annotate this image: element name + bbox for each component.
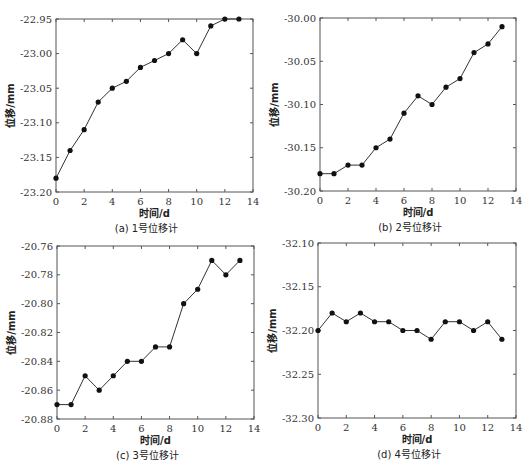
x-tick-label: 6 <box>137 196 143 207</box>
data-point-marker <box>153 344 158 349</box>
data-point-marker <box>97 388 102 393</box>
data-point-marker <box>499 24 504 29</box>
x-tick-label: 12 <box>218 196 231 207</box>
data-point-marker <box>124 79 129 84</box>
data-point-marker <box>429 102 434 107</box>
x-tick-label: 14 <box>510 195 523 206</box>
data-point-marker <box>401 111 406 116</box>
chart-caption: (c) 3号位移计 <box>116 449 179 461</box>
x-tick-label: 4 <box>373 195 379 206</box>
y-tick-label: -20.86 <box>21 385 53 396</box>
data-point-marker <box>222 16 227 21</box>
chart-caption: (d) 4号位移计 <box>377 448 441 460</box>
y-tick-label: -30.15 <box>284 142 316 153</box>
x-tick-label: 2 <box>81 196 87 207</box>
y-tick-label: -30.20 <box>284 186 316 197</box>
y-tick-label: -23.05 <box>20 83 52 94</box>
data-line <box>56 19 239 178</box>
data-point-marker <box>67 148 72 153</box>
data-line <box>318 313 502 339</box>
data-point-marker <box>83 373 88 378</box>
data-point-marker <box>485 41 490 46</box>
data-point-marker <box>429 337 434 342</box>
data-point-marker <box>344 319 349 324</box>
plot-frame <box>56 19 253 192</box>
data-point-marker <box>443 85 448 90</box>
x-tick-label: 0 <box>315 422 321 433</box>
data-point-marker <box>138 65 143 70</box>
chart-panel-d: 02468101214-32.30-32.25-32.20-32.15-32.1… <box>266 238 522 461</box>
data-point-marker <box>457 76 462 81</box>
data-point-marker <box>400 328 405 333</box>
x-tick-label: 14 <box>247 196 260 207</box>
figure-canvas: 02468101214-23.20-23.15-23.10-23.05-23.0… <box>0 0 530 474</box>
data-point-marker <box>208 23 213 28</box>
x-axis-title: 时间/d <box>403 206 434 218</box>
x-tick-label: 12 <box>482 195 495 206</box>
plot-frame <box>57 246 254 419</box>
y-axis-title: 位移/mm <box>4 83 16 128</box>
data-point-marker <box>209 258 214 263</box>
x-tick-label: 2 <box>345 195 351 206</box>
data-point-marker <box>443 319 448 324</box>
x-tick-label: 4 <box>109 196 115 207</box>
data-point-marker <box>181 301 186 306</box>
x-tick-label: 6 <box>401 195 407 206</box>
data-point-marker <box>485 319 490 324</box>
x-tick-label: 14 <box>248 423 261 434</box>
data-point-marker <box>372 319 377 324</box>
data-point-marker <box>223 272 228 277</box>
data-point-marker <box>110 86 115 91</box>
data-point-marker <box>139 359 144 364</box>
x-tick-label: 14 <box>510 422 523 433</box>
y-tick-label: -23.00 <box>20 48 52 59</box>
data-point-marker <box>96 99 101 104</box>
x-tick-label: 10 <box>454 195 467 206</box>
data-point-marker <box>345 162 350 167</box>
data-point-marker <box>237 258 242 263</box>
data-point-marker <box>386 319 391 324</box>
y-tick-label: -23.20 <box>20 187 52 198</box>
data-point-marker <box>195 287 200 292</box>
x-tick-label: 10 <box>191 423 204 434</box>
x-tick-label: 4 <box>110 423 116 434</box>
y-tick-label: -23.15 <box>20 152 52 163</box>
y-tick-label: -20.78 <box>21 269 53 280</box>
data-point-marker <box>317 171 322 176</box>
y-tick-label: -30.05 <box>284 56 316 67</box>
y-tick-label: -32.10 <box>282 238 314 249</box>
y-tick-label: -32.30 <box>282 413 314 424</box>
data-line <box>57 260 240 404</box>
y-tick-label: -20.80 <box>21 298 53 309</box>
y-tick-label: -20.82 <box>21 327 53 338</box>
chart-caption: (b) 2号位移计 <box>378 221 442 233</box>
data-point-marker <box>315 328 320 333</box>
data-line <box>320 27 502 174</box>
data-point-marker <box>54 402 59 407</box>
x-axis-title: 时间/d <box>402 433 433 445</box>
data-point-marker <box>180 37 185 42</box>
x-tick-label: 12 <box>219 423 232 434</box>
y-tick-label: -23.10 <box>20 117 52 128</box>
data-point-marker <box>82 127 87 132</box>
x-tick-label: 8 <box>429 195 435 206</box>
x-axis-title: 时间/d <box>139 207 170 219</box>
x-tick-label: 10 <box>190 196 203 207</box>
chart-panel-a: 02468101214-23.20-23.15-23.10-23.05-23.0… <box>4 14 259 235</box>
data-point-marker <box>236 16 241 21</box>
chart-panel-b: 02468101214-30.20-30.15-30.10-30.05-30.0… <box>268 13 522 234</box>
x-tick-label: 8 <box>166 423 172 434</box>
data-point-marker <box>125 359 130 364</box>
x-tick-label: 0 <box>317 195 323 206</box>
data-point-marker <box>387 137 392 142</box>
data-point-marker <box>111 373 116 378</box>
x-tick-label: 10 <box>453 422 466 433</box>
y-axis-title: 位移/mm <box>266 308 278 353</box>
y-axis-title: 位移/mm <box>268 82 280 127</box>
chart-caption: (a) 1号位移计 <box>115 222 178 234</box>
data-point-marker <box>68 402 73 407</box>
y-tick-label: -20.84 <box>21 356 53 367</box>
data-point-marker <box>167 344 172 349</box>
y-tick-label: -32.25 <box>282 369 314 380</box>
x-tick-label: 8 <box>165 196 171 207</box>
